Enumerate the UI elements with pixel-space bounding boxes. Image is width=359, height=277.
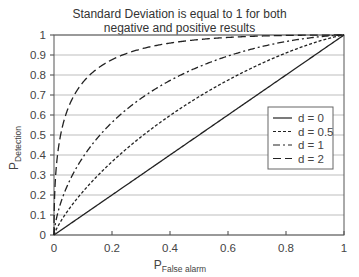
x-tick-label: 0.4 [162,242,179,254]
y-tick-label: 0.2 [30,189,46,201]
y-tick-label: 1 [40,29,46,41]
y-tick-label: 0.4 [30,149,47,161]
x-tick-label: 0.8 [278,242,294,254]
y-tick-label: 0.5 [30,129,46,141]
roc-chart: 00.10.20.30.40.50.60.70.80.9100.20.40.60… [0,0,359,277]
y-tick-label: 0.3 [30,169,46,181]
y-tick-label: 0.9 [30,49,46,61]
legend-item: d = 1 [298,139,324,151]
y-tick-label: 0 [40,229,46,241]
legend-item: d = 2 [298,153,324,165]
x-tick-label: 0 [51,242,57,254]
x-tick-label: 1 [341,242,347,254]
legend: d = 0d = 0.5d = 1d = 2 [268,107,334,169]
y-tick-label: 0.8 [30,69,46,81]
y-axis-label: PDetection [7,126,23,170]
y-tick-label: 0.6 [30,109,46,121]
legend-item: d = 0 [298,112,324,124]
legend-item: d = 0.5 [298,126,334,138]
y-tick-label: 0.1 [30,209,46,221]
x-tick-label: 0.6 [220,242,236,254]
y-tick-label: 0.7 [30,89,46,101]
x-axis-label: PFalse alarm [154,258,206,274]
x-tick-label: 0.2 [104,242,120,254]
